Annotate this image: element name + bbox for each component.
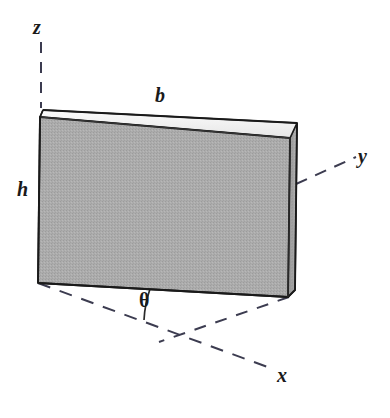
width-dimension-label: b [155, 85, 165, 105]
x-axis-line [38, 283, 273, 369]
figure-canvas: z y x b h θ [0, 0, 390, 418]
y-axis-label: y [358, 146, 367, 166]
slab-front-face [38, 117, 290, 297]
y-axis-line [296, 157, 356, 184]
x-axis-label: x [277, 365, 287, 385]
slab-solid [38, 110, 297, 297]
z-axis-label: z [33, 17, 41, 37]
theta-angle-label: θ [139, 290, 149, 310]
corner-projection-line [159, 297, 289, 342]
height-dimension-label: h [17, 179, 28, 199]
slab-diagram-svg [0, 0, 390, 418]
